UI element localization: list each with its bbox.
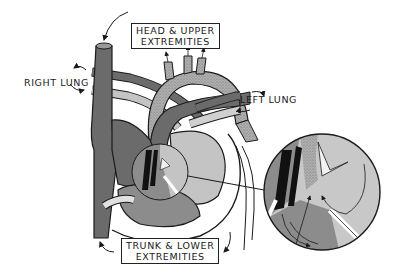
label-trunk-line1: TRUNK & LOWER [126, 240, 214, 251]
label-trunk-line2: EXTREMITIES [126, 251, 214, 262]
label-right-lung: RIGHT LUNG [24, 77, 89, 88]
magnified-inset [264, 134, 384, 254]
label-left-lung: LEFT LUNG [240, 94, 297, 105]
label-head-line1: HEAD & UPPER [136, 25, 215, 36]
label-head-line2: EXTREMITIES [136, 36, 215, 47]
label-head-upper-extremities: HEAD & UPPER EXTREMITIES [131, 23, 220, 49]
label-trunk-lower-extremities: TRUNK & LOWER EXTREMITIES [121, 238, 219, 264]
